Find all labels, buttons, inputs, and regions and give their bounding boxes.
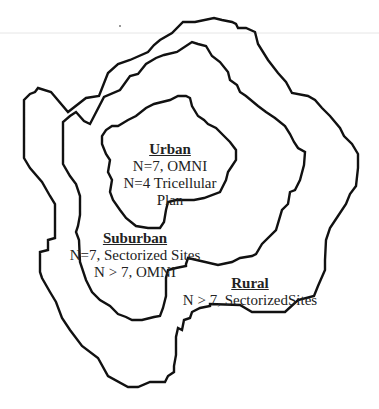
- urban-zone-label: Urban N=7, OMNI N=4 Tricellular Plan: [100, 141, 240, 209]
- rural-zone-title: Rural: [170, 275, 330, 292]
- suburban-zone-line-1: N=7, Sectorized Sites: [55, 247, 215, 264]
- rural-zone-label: Rural N > 7, SectorizedSites: [170, 275, 330, 309]
- urban-zone-title: Urban: [100, 141, 240, 158]
- urban-zone-line-3: Plan: [100, 192, 240, 209]
- suburban-zone-label: Suburban N=7, Sectorized Sites N > 7, OM…: [55, 230, 215, 281]
- urban-zone-line-1: N=7, OMNI: [100, 158, 240, 175]
- scan-speck: [119, 25, 121, 27]
- urban-zone-line-2: N=4 Tricellular: [100, 175, 240, 192]
- rural-zone-line-1: N > 7, SectorizedSites: [170, 292, 330, 309]
- suburban-zone-title: Suburban: [55, 230, 215, 247]
